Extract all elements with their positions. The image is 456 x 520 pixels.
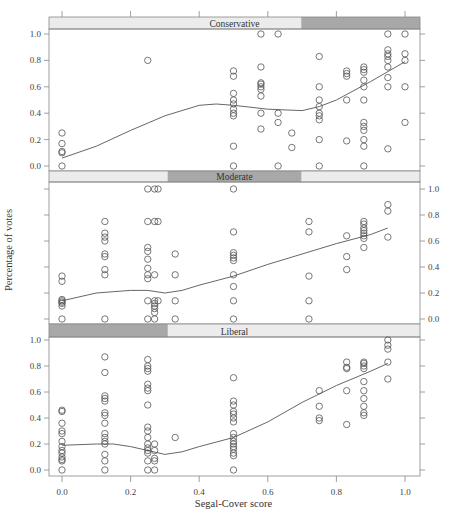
- panel-frame: [49, 182, 420, 324]
- svg-text:0.6: 0.6: [262, 487, 274, 497]
- panel-conservative: Conservative0.00.20.40.60.81.0: [30, 17, 425, 171]
- svg-text:0.4: 0.4: [30, 108, 42, 118]
- svg-text:0.8: 0.8: [30, 55, 42, 65]
- svg-text:1.0: 1.0: [428, 184, 440, 194]
- strip-moderate: Moderate: [49, 171, 420, 182]
- data-points: [59, 337, 391, 473]
- strip-liberal: Liberal: [49, 324, 420, 337]
- svg-text:0.6: 0.6: [30, 387, 42, 397]
- strip-conservative: Conservative: [49, 17, 420, 29]
- loess-curve: [62, 228, 388, 301]
- svg-text:0.2: 0.2: [30, 439, 41, 449]
- svg-text:0.8: 0.8: [428, 210, 440, 220]
- y-axis-title: Percentage of votes: [3, 209, 14, 291]
- svg-text:0.2: 0.2: [125, 487, 136, 497]
- svg-text:0.4: 0.4: [30, 413, 42, 423]
- panel-liberal: Liberal0.00.20.40.60.81.0: [30, 324, 425, 476]
- svg-text:0.4: 0.4: [194, 487, 206, 497]
- y-axis-conservative: 0.00.20.40.60.81.0: [30, 29, 425, 171]
- svg-text:0.8: 0.8: [331, 487, 343, 497]
- strip-label: Conservative: [209, 19, 259, 29]
- svg-text:0.6: 0.6: [30, 82, 42, 92]
- svg-text:1.0: 1.0: [30, 29, 42, 39]
- svg-text:0.0: 0.0: [30, 465, 42, 475]
- svg-text:1.0: 1.0: [399, 487, 411, 497]
- svg-text:0.6: 0.6: [428, 236, 440, 246]
- data-points: [59, 186, 391, 322]
- svg-text:0.8: 0.8: [30, 361, 42, 371]
- lattice-scatter-chart: Conservative0.00.20.40.60.81.0Moderate0.…: [0, 0, 456, 520]
- x-axis: 0.00.20.40.60.81.0: [56, 11, 411, 497]
- y-axis-liberal: 0.00.20.40.60.81.0: [30, 335, 425, 475]
- panel-moderate: Moderate0.00.20.40.60.81.0: [44, 171, 440, 324]
- data-points: [59, 31, 408, 169]
- strip-label: Liberal: [221, 327, 249, 337]
- svg-text:0.4: 0.4: [428, 262, 440, 272]
- strip-label: Moderate: [216, 172, 252, 182]
- loess-curve: [62, 363, 388, 454]
- x-axis-title: Segal-Cover score: [195, 498, 273, 509]
- svg-text:0.2: 0.2: [30, 135, 41, 145]
- panel-frame: [49, 337, 420, 476]
- svg-text:1.0: 1.0: [30, 335, 42, 345]
- svg-text:0.2: 0.2: [428, 288, 439, 298]
- svg-text:0.0: 0.0: [30, 161, 42, 171]
- svg-text:0.0: 0.0: [428, 314, 440, 324]
- svg-text:0.0: 0.0: [56, 487, 68, 497]
